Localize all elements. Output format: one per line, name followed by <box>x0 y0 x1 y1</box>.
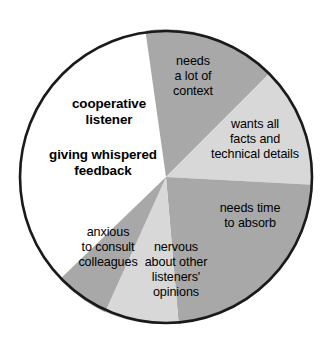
slice-label-giving-whispered-feedback: giving whispered feedback <box>24 147 182 179</box>
slice-label-cooperative-listener: cooperative listener <box>44 96 174 128</box>
slice-label-anxious-to-consult: anxious to consult colleagues <box>62 225 154 270</box>
slice-label-wants-all-facts: wants all facts and technical details <box>196 117 314 162</box>
slice-label-needs-a-lot-of-context: needs a lot of context <box>150 54 236 99</box>
slice-label-needs-time-to-absorb: needs time to absorb <box>200 201 300 231</box>
pie-chart-figure: needs a lot of context wants all facts a… <box>0 0 330 352</box>
